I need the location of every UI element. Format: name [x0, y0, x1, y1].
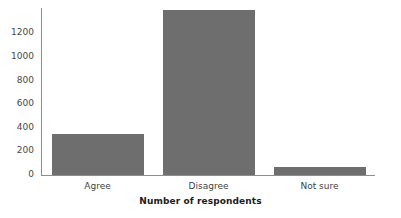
y-axis-tick-label-text: 1000	[11, 51, 34, 61]
y-axis-tick-label-text: 400	[17, 122, 34, 132]
bar-disagree	[163, 10, 255, 175]
y-axis-tick-label-text: 600	[17, 98, 34, 108]
bar-agree	[52, 134, 144, 175]
x-axis-tick-label: Disagree	[154, 181, 264, 191]
y-axis-tick-label-text: 200	[17, 145, 34, 155]
y-axis-tick-label-text: 0	[28, 169, 34, 179]
x-axis-line	[41, 175, 375, 176]
x-axis-tick-label: Agree	[43, 181, 153, 191]
bar-not-sure	[274, 167, 366, 175]
bar-chart: 020040060080010001200 AgreeDisagreeNot s…	[0, 0, 401, 218]
plot-area	[42, 8, 375, 175]
y-axis-tick-label-text: 1200	[11, 27, 34, 37]
x-axis-tick-label: Not sure	[265, 181, 375, 191]
y-axis-tick-label-text: 800	[17, 75, 34, 85]
x-axis-title: Number of respondents	[0, 196, 401, 206]
